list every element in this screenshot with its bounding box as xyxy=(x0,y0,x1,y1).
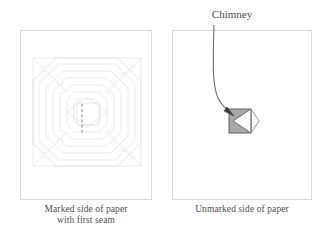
pattern-corner-ray-bl xyxy=(33,132,67,166)
pattern-corner-ray-tl xyxy=(33,58,67,92)
caption-unmarked-line1: Unmarked side of paper xyxy=(166,204,318,215)
pattern-center-diamond xyxy=(67,97,107,127)
pattern-corner-ray-br xyxy=(107,132,141,166)
caption-marked-line1: Marked side of paper xyxy=(14,204,158,215)
pattern-corner-ray-tr xyxy=(107,58,141,92)
pattern-ring-6 xyxy=(67,92,107,132)
figure-root: Chimney Marked side of paper with first … xyxy=(0,0,329,236)
pattern-ring-5 xyxy=(60,85,114,139)
caption-unmarked-side: Unmarked side of paper xyxy=(166,204,318,215)
crease-pattern-graphic xyxy=(21,31,153,201)
chimney-flap-edge-top xyxy=(251,109,259,121)
chimney-shape-graphic xyxy=(173,31,313,201)
chimney-flap-edge-bottom xyxy=(251,121,259,133)
chimney-callout-label: Chimney xyxy=(186,8,278,21)
panel-unmarked-side xyxy=(172,30,312,200)
caption-marked-side: Marked side of paper with first seam xyxy=(14,204,158,226)
panel-marked-side xyxy=(20,30,152,200)
caption-marked-line2: with first seam xyxy=(14,215,158,226)
